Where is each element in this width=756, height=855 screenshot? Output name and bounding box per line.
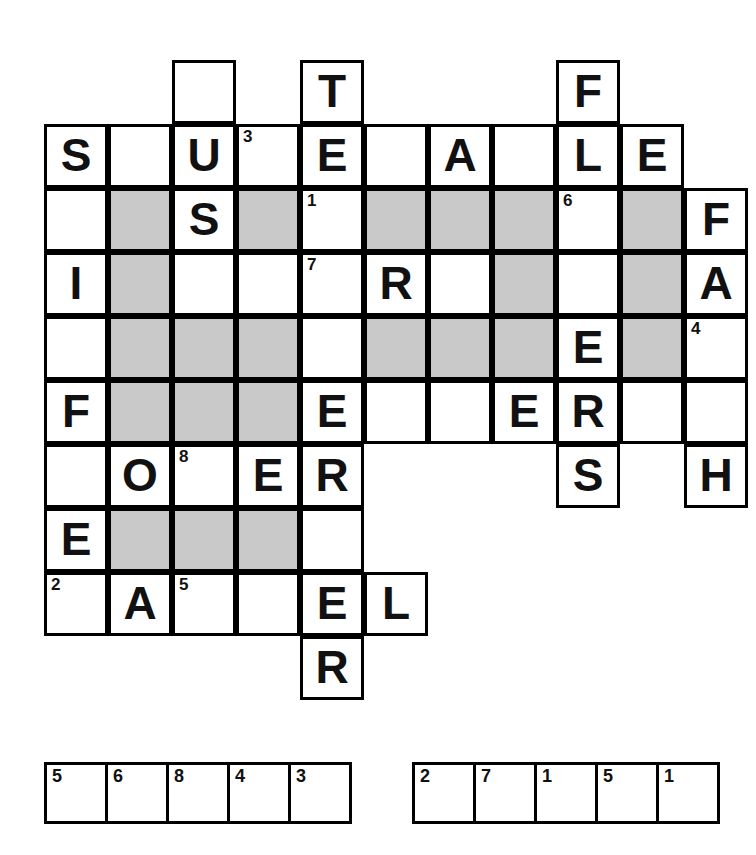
grid-cell-r5-c5[interactable] <box>364 380 428 444</box>
grid-cell-r4-c4[interactable] <box>300 316 364 380</box>
cell-letter: F <box>687 191 745 249</box>
answer-index-number: 7 <box>481 767 491 785</box>
grid-cell-r7-c4[interactable] <box>300 508 364 572</box>
grid-cell-r6-c2[interactable]: 8 <box>172 444 236 508</box>
answer-strip-left-cell-4[interactable]: 4 <box>227 762 291 824</box>
clue-number: 2 <box>51 576 60 593</box>
grid-cell-r5-c9[interactable] <box>620 380 684 444</box>
grid-cell-r2-c9 <box>620 188 684 252</box>
grid-cell-r2-c0[interactable] <box>44 188 108 252</box>
grid-cell-r3-c3[interactable] <box>236 252 300 316</box>
grid-cell-r2-c2[interactable]: S <box>172 188 236 252</box>
grid-cell-r8-c1[interactable]: A <box>108 572 172 636</box>
grid-cell-r7-c0[interactable]: E <box>44 508 108 572</box>
grid-cell-r2-c3 <box>236 188 300 252</box>
cell-letter: H <box>687 447 745 505</box>
grid-cell-r9-c4[interactable]: R <box>300 636 364 700</box>
grid-cell-r8-c2[interactable]: 5 <box>172 572 236 636</box>
grid-cell-r3-c0[interactable]: I <box>44 252 108 316</box>
answer-strip-left-cell-1[interactable]: 5 <box>44 762 108 824</box>
grid-cell-r3-c7 <box>492 252 556 316</box>
grid-cell-r4-c1 <box>108 316 172 380</box>
grid-cell-r6-c8[interactable]: S <box>556 444 620 508</box>
grid-cell-r3-c5[interactable]: R <box>364 252 428 316</box>
grid-cell-r4-c8[interactable]: E <box>556 316 620 380</box>
answer-strip-right-cell-1[interactable]: 2 <box>412 762 476 824</box>
grid-cell-r8-c0[interactable]: 2 <box>44 572 108 636</box>
cell-letter: S <box>559 447 617 505</box>
cell-letter: E <box>495 383 553 441</box>
grid-cell-r4-c10[interactable]: 4 <box>684 316 748 380</box>
clue-number: 3 <box>243 128 252 145</box>
grid-cell-r3-c8[interactable] <box>556 252 620 316</box>
grid-cell-r6-c0[interactable] <box>44 444 108 508</box>
grid-cell-r5-c4[interactable]: E <box>300 380 364 444</box>
grid-cell-r1-c8[interactable]: L <box>556 124 620 188</box>
grid-cell-r0-c4[interactable]: T <box>300 60 364 124</box>
grid-cell-r4-c0[interactable] <box>44 316 108 380</box>
grid-cell-r5-c2 <box>172 380 236 444</box>
grid-cell-r4-c7 <box>492 316 556 380</box>
answer-strip-left[interactable]: 56843 <box>44 762 352 824</box>
clue-number: 5 <box>179 576 188 593</box>
grid-cell-r1-c7[interactable] <box>492 124 556 188</box>
answer-strip-right-cell-3[interactable]: 1 <box>534 762 598 824</box>
answer-strip-right-cell-4[interactable]: 5 <box>595 762 659 824</box>
grid-cell-r3-c4[interactable]: 7 <box>300 252 364 316</box>
grid-cell-r8-c4[interactable]: E <box>300 572 364 636</box>
grid-cell-r1-c5[interactable] <box>364 124 428 188</box>
answer-strip-left-cell-5[interactable]: 3 <box>288 762 352 824</box>
grid-cell-r1-c3[interactable]: 3 <box>236 124 300 188</box>
grid-cell-r5-c0[interactable]: F <box>44 380 108 444</box>
grid-cell-r2-c4[interactable]: 1 <box>300 188 364 252</box>
cell-letter: O <box>111 447 169 505</box>
cell-letter: I <box>47 255 105 313</box>
grid-cell-r6-c4[interactable]: R <box>300 444 364 508</box>
answer-strip-right-cell-5[interactable]: 1 <box>656 762 720 824</box>
grid-cell-r0-c8[interactable]: F <box>556 60 620 124</box>
grid-cell-r5-c10[interactable] <box>684 380 748 444</box>
cell-letter: E <box>47 511 105 569</box>
cell-letter: L <box>367 575 425 633</box>
grid-cell-r3-c2[interactable] <box>172 252 236 316</box>
grid-cell-r5-c6[interactable] <box>428 380 492 444</box>
clue-number: 4 <box>691 320 700 337</box>
grid-cell-r4-c2 <box>172 316 236 380</box>
grid-cell-r4-c3 <box>236 316 300 380</box>
grid-cell-r2-c8[interactable]: 6 <box>556 188 620 252</box>
grid-cell-r4-c6 <box>428 316 492 380</box>
grid-cell-r0-c2[interactable] <box>172 60 236 124</box>
grid-cell-r5-c8[interactable]: R <box>556 380 620 444</box>
grid-cell-r3-c9 <box>620 252 684 316</box>
grid-cell-r1-c1[interactable] <box>108 124 172 188</box>
cell-letter: T <box>303 63 361 121</box>
grid-cell-r6-c1[interactable]: O <box>108 444 172 508</box>
grid-cell-r6-c3[interactable]: E <box>236 444 300 508</box>
grid-cell-r8-c5[interactable]: L <box>364 572 428 636</box>
grid-cell-r1-c0[interactable]: S <box>44 124 108 188</box>
answer-strip-left-cell-2[interactable]: 6 <box>105 762 169 824</box>
grid-cell-r3-c6[interactable] <box>428 252 492 316</box>
grid-cell-r8-c3[interactable] <box>236 572 300 636</box>
answer-strip-right-cell-2[interactable]: 7 <box>473 762 537 824</box>
cell-letter: E <box>303 383 361 441</box>
crossword-grid[interactable]: TFSU3EALES16FI7RAE4FEERO8ERSHE2A5ELR <box>0 0 756 700</box>
grid-cell-r3-c10[interactable]: A <box>684 252 748 316</box>
cell-letter: F <box>47 383 105 441</box>
grid-cell-r1-c2[interactable]: U <box>172 124 236 188</box>
clue-number: 1 <box>307 192 316 209</box>
grid-cell-r2-c10[interactable]: F <box>684 188 748 252</box>
grid-cell-r1-c9[interactable]: E <box>620 124 684 188</box>
grid-cell-r1-c6[interactable]: A <box>428 124 492 188</box>
grid-cell-r1-c4[interactable]: E <box>300 124 364 188</box>
grid-cell-r5-c1 <box>108 380 172 444</box>
grid-cell-r5-c7[interactable]: E <box>492 380 556 444</box>
cell-letter: F <box>559 63 617 121</box>
clue-number: 8 <box>179 448 188 465</box>
answer-strip-left-cell-3[interactable]: 8 <box>166 762 230 824</box>
grid-cell-r6-c10[interactable]: H <box>684 444 748 508</box>
cell-letter: A <box>687 255 745 313</box>
answer-strip-right[interactable]: 27151 <box>412 762 720 824</box>
answer-index-number: 3 <box>296 767 306 785</box>
answer-index-number: 2 <box>420 767 430 785</box>
